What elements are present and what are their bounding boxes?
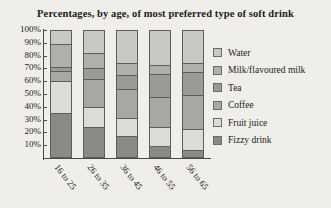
y-axis-tick-label: 10% [0, 140, 44, 149]
y-axis-tick-label: 30% [0, 114, 44, 123]
bar-segment[interactable] [83, 107, 105, 127]
legend-swatch-icon [213, 83, 222, 92]
bar-segment[interactable] [182, 63, 204, 72]
chart-legend: WaterMilk/flavoured milkTeaCoffeeFruit j… [213, 44, 331, 149]
bar-segment[interactable] [182, 150, 204, 158]
bar-segment[interactable] [182, 72, 204, 95]
bar-segment[interactable] [50, 44, 72, 67]
x-axis-label: 36 to 45 [118, 162, 144, 191]
legend-swatch-icon [213, 48, 222, 57]
bar-column[interactable] [116, 30, 138, 158]
legend-item[interactable]: Fizzy drink [213, 132, 331, 150]
bar-segment[interactable] [149, 30, 171, 65]
bar-segment[interactable] [149, 65, 171, 74]
y-axis-tick-label: 50% [0, 89, 44, 98]
bar-segment[interactable] [50, 30, 72, 44]
legend-item[interactable]: Milk/flavoured milk [213, 62, 331, 80]
legend-swatch-icon [213, 118, 222, 127]
bar-segment[interactable] [50, 81, 72, 113]
bar-segment[interactable] [50, 113, 72, 158]
bar-segment[interactable] [50, 71, 72, 81]
legend-swatch-icon [213, 136, 222, 145]
x-axis-label-wrap: 26 to 35 [83, 159, 105, 207]
legend-swatch-icon [213, 66, 222, 75]
legend-item[interactable]: Fruit juice [213, 114, 331, 132]
bar-column[interactable] [149, 30, 171, 158]
bar-segment[interactable] [83, 68, 105, 78]
x-axis-label-wrap: 36 to 45 [116, 159, 138, 207]
plot-area [44, 30, 210, 158]
x-axis-label: 26 to 35 [85, 162, 111, 191]
bar-segment[interactable] [116, 63, 138, 75]
bar-column[interactable] [50, 30, 72, 158]
bar-segment[interactable] [83, 30, 105, 53]
bar-segment[interactable] [116, 75, 138, 89]
bar-segment[interactable] [149, 146, 171, 158]
legend-label: Water [228, 48, 250, 58]
y-axis-tick-label: 20% [0, 127, 44, 136]
legend-item[interactable]: Water [213, 44, 331, 62]
bar-segment[interactable] [116, 89, 138, 118]
y-axis-tick-label: 40% [0, 101, 44, 110]
bar-segment[interactable] [116, 118, 138, 136]
bar-segment[interactable] [149, 97, 171, 128]
x-axis-label-wrap: 46 to 55 [149, 159, 171, 207]
bar-segment[interactable] [83, 127, 105, 158]
bar-segment[interactable] [116, 30, 138, 63]
bar-segment[interactable] [182, 30, 204, 63]
y-axis-tick-label: 80% [0, 50, 44, 59]
legend-label: Coffee [228, 100, 254, 110]
x-axis-label: 46 to 55 [152, 162, 178, 191]
legend-label: Tea [228, 83, 242, 93]
x-axis-label: 56 to 65 [185, 162, 211, 191]
x-axis-labels: 16 to 2526 to 3536 to 4546 to 5556 to 65 [44, 159, 210, 207]
bar-segment[interactable] [149, 74, 171, 97]
bar-group [44, 30, 210, 158]
legend-label: Milk/flavoured milk [228, 65, 305, 75]
y-axis-tick-label: 70% [0, 63, 44, 72]
legend-item[interactable]: Tea [213, 79, 331, 97]
x-axis-label-wrap: 56 to 65 [182, 159, 204, 207]
x-axis-label: 16 to 25 [52, 162, 78, 191]
bar-segment[interactable] [83, 79, 105, 107]
y-axis-tick-label: 60% [0, 76, 44, 85]
bar-segment[interactable] [182, 95, 204, 128]
y-axis-tick-label: 90% [0, 37, 44, 46]
chart-title: Percentages, by age, of most preferred t… [0, 8, 331, 19]
bar-segment[interactable] [149, 127, 171, 146]
legend-label: Fizzy drink [228, 135, 272, 145]
bar-segment[interactable] [182, 129, 204, 151]
bar-segment[interactable] [83, 53, 105, 68]
x-axis-label-wrap: 16 to 25 [50, 159, 72, 207]
legend-swatch-icon [213, 101, 222, 110]
legend-item[interactable]: Coffee [213, 97, 331, 115]
legend-label: Fruit juice [228, 118, 267, 128]
bar-segment[interactable] [116, 136, 138, 158]
y-axis-tick-label: 100% [0, 25, 44, 34]
bar-column[interactable] [182, 30, 204, 158]
bar-column[interactable] [83, 30, 105, 158]
chart-container: Percentages, by age, of most preferred t… [0, 0, 331, 208]
